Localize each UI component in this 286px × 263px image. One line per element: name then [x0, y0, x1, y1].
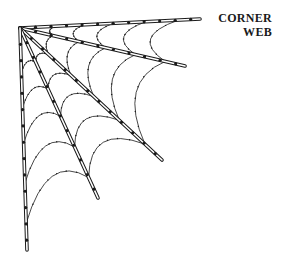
spoke-left [19, 28, 28, 250]
web-thread [97, 23, 114, 47]
web-thread [23, 86, 49, 107]
caption-line-1: CORNER [218, 11, 272, 25]
caption-label: CORNER WEB [218, 11, 272, 39]
web-thread [21, 60, 35, 72]
web-thread [61, 93, 94, 116]
web-thread [75, 116, 120, 147]
web-thread [25, 142, 75, 184]
corner-web-illustration [0, 0, 286, 263]
spoke-top [20, 18, 200, 29]
web-thread [150, 20, 178, 61]
web-thread [24, 112, 61, 143]
web-thread [67, 42, 79, 76]
web-thread [135, 61, 165, 144]
web-thread [48, 73, 71, 89]
web-thread [89, 139, 145, 178]
web-thread [111, 55, 135, 121]
web-thread [26, 171, 88, 223]
caption-line-2: WEB [218, 25, 272, 39]
web-spokes [19, 18, 200, 250]
spoke-upper [20, 28, 185, 66]
spoke-middle [20, 28, 162, 160]
web-thread [88, 48, 106, 97]
web-thread [123, 22, 146, 55]
